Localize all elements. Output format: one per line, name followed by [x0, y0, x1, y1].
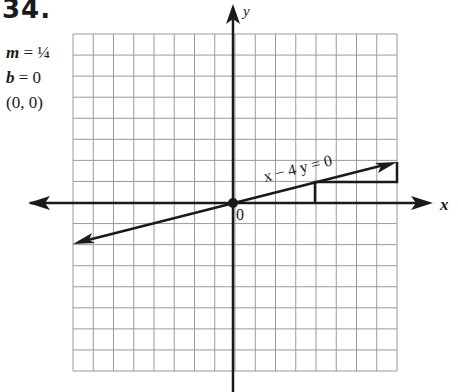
x-axis-label: x [439, 195, 449, 214]
y-axis-label: y [241, 3, 250, 19]
y-axis: y [226, 3, 250, 392]
coordinate-graph: x y 0 x − 4 y = 0 [0, 0, 458, 392]
origin-label: 0 [236, 206, 244, 223]
